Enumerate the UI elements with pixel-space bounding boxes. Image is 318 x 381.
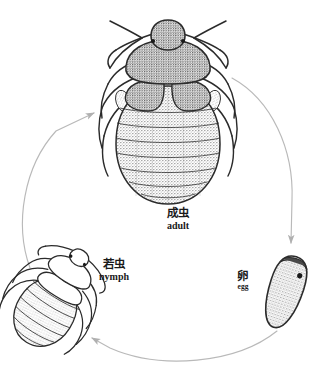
adult-eye-right [181, 39, 185, 43]
adult-wing-pad-right [172, 81, 211, 112]
egg-illustration [257, 252, 312, 333]
bedbug-lifecycle-diagram: 成虫 adult 若虫 nymph 卵 egg [0, 0, 318, 381]
arrow-adult-to-egg [232, 78, 292, 243]
adult-eye-left [151, 39, 155, 43]
stage-label-egg: 卵 egg [214, 270, 272, 291]
stage-label-nymph-cn: 若虫 [82, 258, 146, 271]
adult-wing-pad-left [125, 81, 164, 112]
nymph-bedbug-illustration [0, 227, 122, 367]
stage-label-adult-en: adult [148, 220, 208, 231]
stage-label-egg-en: egg [214, 283, 272, 291]
stage-label-nymph-en: nymph [82, 271, 146, 282]
arrow-egg-to-nymph [92, 331, 277, 361]
stage-label-adult: 成虫 adult [148, 207, 208, 231]
arrow-nymph-to-adult [22, 113, 94, 268]
stage-label-nymph: 若虫 nymph [82, 258, 146, 282]
stage-label-egg-cn: 卵 [214, 270, 272, 283]
stage-label-adult-cn: 成虫 [148, 207, 208, 220]
adult-head [151, 20, 185, 50]
lifecycle-illustration [0, 0, 318, 381]
adult-bedbug-illustration [99, 20, 237, 204]
